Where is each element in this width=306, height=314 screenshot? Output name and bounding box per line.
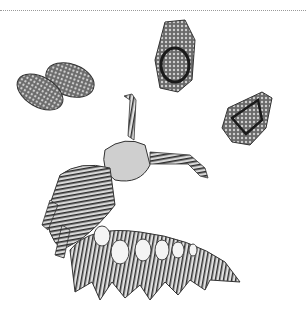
- egg-top: [155, 20, 195, 92]
- egg-right: [222, 92, 272, 145]
- egg-pair: [11, 56, 99, 117]
- illustration: [0, 0, 306, 314]
- caterpillar: [42, 94, 240, 300]
